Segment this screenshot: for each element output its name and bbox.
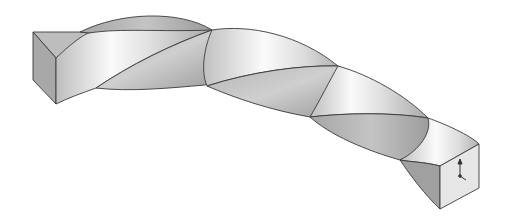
twisted-bar-render xyxy=(0,0,509,219)
twist-under-4 xyxy=(400,160,440,209)
